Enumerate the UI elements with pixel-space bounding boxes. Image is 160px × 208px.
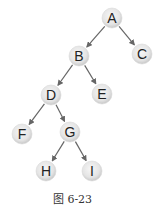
tree-node-i: I xyxy=(82,161,102,181)
tree-node-f: F xyxy=(12,124,32,144)
tree-node-e: E xyxy=(92,84,112,104)
edge-d-g xyxy=(56,105,64,122)
node-label: E xyxy=(97,86,106,102)
figure-caption: 图 6-23 xyxy=(0,190,145,206)
node-label: G xyxy=(65,124,76,140)
edge-a-b xyxy=(87,26,105,47)
tree-node-a: A xyxy=(102,8,122,28)
tree-node-b: B xyxy=(69,46,89,66)
tree-node-h: H xyxy=(36,161,56,181)
node-label: H xyxy=(41,163,51,179)
tree-node-c: C xyxy=(132,44,152,64)
tree-node-d: D xyxy=(41,85,61,105)
edge-b-d xyxy=(58,65,73,85)
node-label: A xyxy=(107,10,117,26)
node-label: C xyxy=(137,46,147,62)
tree-node-g: G xyxy=(60,122,80,142)
node-label: B xyxy=(74,48,83,64)
tree-diagram: ABCDEFGHI xyxy=(0,0,160,208)
node-label: F xyxy=(18,126,27,142)
edge-g-i xyxy=(75,142,86,161)
edge-a-c xyxy=(119,26,134,44)
node-label: D xyxy=(46,87,56,103)
node-label: I xyxy=(90,163,94,179)
edge-d-f xyxy=(29,104,44,125)
edge-g-h xyxy=(52,141,64,160)
tree-nodes: ABCDEFGHI xyxy=(12,8,152,181)
edge-b-e xyxy=(85,65,96,83)
